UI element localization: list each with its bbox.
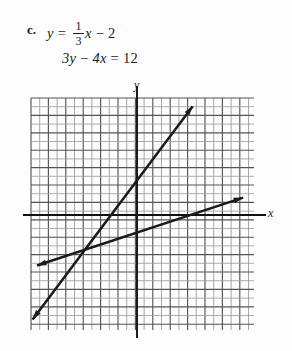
- equation-2-term1: 3y: [62, 50, 76, 67]
- grid-horizontal-lines: [31, 98, 254, 324]
- x-axis-label: x: [268, 206, 273, 221]
- equation-2-equals: =: [111, 50, 119, 67]
- equation-1-variable: x: [85, 25, 92, 42]
- coordinate-graph: y x: [0, 75, 292, 351]
- equation-1: y = 1 3 x − 2: [47, 20, 116, 47]
- fraction-numerator: 1: [74, 20, 82, 33]
- equation-1-constant: 2: [108, 25, 115, 42]
- problem-label: c.: [27, 22, 36, 38]
- equation-2: 3y − 4x = 12: [62, 50, 138, 67]
- equation-2-operator: −: [80, 50, 88, 67]
- equation-1-equals: =: [58, 25, 66, 42]
- fraction-one-third: 1 3: [73, 20, 84, 47]
- equation-1-lhs: y: [47, 25, 54, 42]
- y-axis-label: y: [134, 78, 139, 93]
- equation-2-term2: 4x: [92, 50, 106, 67]
- equation-1-operator: −: [96, 25, 104, 42]
- graph-svg: [0, 75, 292, 351]
- equation-2-rhs: 12: [123, 50, 138, 67]
- worksheet-page: c. y = 1 3 x − 2 3y − 4x = 12: [0, 0, 292, 351]
- fraction-denominator: 3: [74, 34, 82, 47]
